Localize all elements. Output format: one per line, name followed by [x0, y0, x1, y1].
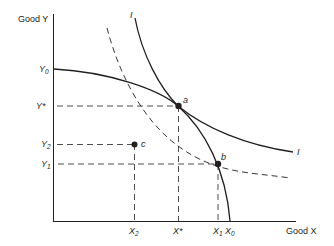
y-tick-y2: Y2 — [41, 139, 51, 150]
production-possibility-diagram: Good Y Good X I I a b c Y0 Y* Y2 Y1 X2 X… — [0, 0, 334, 246]
x-tick-x2: X2 — [128, 226, 139, 237]
point-c — [132, 142, 138, 148]
indifference-label-top: I — [130, 10, 133, 20]
x-axis-label: Good X — [286, 226, 317, 236]
y-tick-y0: Y0 — [39, 64, 49, 75]
indifference-curve — [135, 18, 293, 152]
point-c-label: c — [141, 139, 146, 149]
point-a — [175, 103, 181, 109]
y-tick-y-star: Y* — [36, 101, 46, 111]
indifference-label-right: I — [297, 147, 300, 157]
point-b-label: b — [221, 152, 226, 162]
y-tick-y1: Y1 — [41, 159, 51, 170]
x-tick-x1: X1 — [212, 226, 223, 237]
x-tick-x0: X0 — [224, 226, 235, 237]
point-a-label: a — [183, 95, 188, 105]
x-tick-x-star: X* — [172, 226, 183, 236]
y-axis-label: Good Y — [18, 14, 48, 24]
